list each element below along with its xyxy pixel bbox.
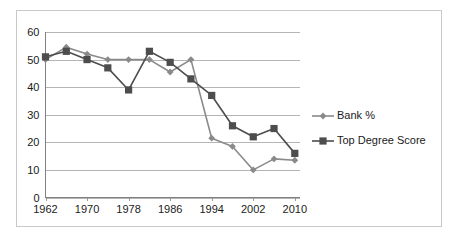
data-point-marker (167, 69, 174, 76)
data-point-marker (104, 64, 111, 71)
y-tick-label: 50 (27, 54, 39, 66)
data-point-marker (208, 135, 215, 142)
data-point-marker (229, 122, 236, 129)
data-point-marker (63, 48, 70, 55)
legend-label: Bank % (337, 109, 375, 121)
x-tick-label: 2010 (283, 203, 307, 215)
x-tick-label: 1970 (75, 203, 99, 215)
data-point-marker (125, 86, 132, 93)
data-point-marker (291, 150, 298, 157)
legend: Bank %Top Degree Score (312, 109, 426, 146)
y-tick-labels: 0102030405060 (27, 26, 39, 204)
y-tick-label: 40 (27, 81, 39, 93)
square-marker (319, 137, 326, 144)
legend-label: Top Degree Score (337, 134, 426, 146)
y-tick-label: 20 (27, 136, 39, 148)
x-tick-labels: 1962197019781986199420022010 (33, 203, 307, 215)
y-tick-label: 30 (27, 109, 39, 121)
series-layer (42, 44, 299, 174)
data-point-marker (271, 155, 278, 162)
chart-root: 0102030405060 19621970197819861994200220… (0, 0, 461, 244)
data-point-marker (42, 53, 49, 60)
data-point-marker (125, 56, 132, 63)
x-tick-label: 2002 (241, 203, 265, 215)
x-tick-label: 1962 (33, 203, 57, 215)
data-point-marker (188, 56, 195, 63)
y-tick-label: 10 (27, 164, 39, 176)
line-chart: 0102030405060 19621970197819861994200220… (0, 0, 461, 244)
data-point-marker (270, 125, 277, 132)
x-tick-label: 1994 (199, 203, 223, 215)
data-point-marker (187, 75, 194, 82)
series-line (46, 51, 295, 153)
data-point-marker (167, 59, 174, 66)
x-tick-label: 1978 (116, 203, 140, 215)
data-point-marker (83, 56, 90, 63)
data-point-marker (146, 48, 153, 55)
data-point-marker (208, 92, 215, 99)
data-point-marker (250, 133, 257, 140)
x-tick-label: 1986 (158, 203, 182, 215)
diamond-marker (320, 113, 327, 120)
data-point-marker (291, 157, 298, 164)
y-tick-label: 60 (27, 26, 39, 38)
data-point-marker (104, 56, 111, 63)
